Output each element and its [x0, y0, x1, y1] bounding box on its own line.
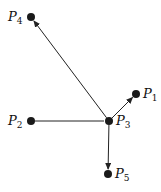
node-P4	[27, 13, 35, 21]
edges	[34, 21, 132, 169]
edge-P3-P5	[108, 125, 109, 169]
node-label-P3: P3	[115, 113, 131, 130]
edge-P3-P4	[34, 21, 107, 118]
node-P5	[104, 170, 112, 178]
node-P2	[27, 117, 35, 125]
node-label-P5: P5	[114, 166, 130, 183]
nodes	[27, 13, 140, 178]
node-P3	[105, 117, 113, 125]
node-label-P1: P1	[142, 86, 157, 103]
node-label-P2: P2	[7, 113, 22, 130]
node-P1	[132, 90, 140, 98]
graph-diagram: P1P2P3P4P5	[0, 0, 161, 192]
node-label-P4: P4	[7, 9, 23, 26]
